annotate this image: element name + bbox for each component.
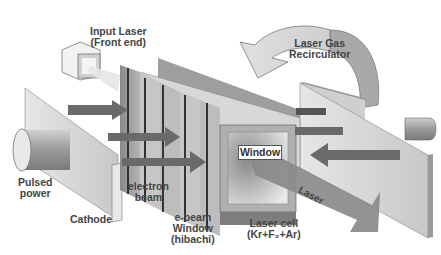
input-laser-label-line2: (Front end) — [90, 37, 147, 48]
ebeam-window-label: e-beam Window (hibachi) — [171, 212, 215, 245]
input-laser-front-end — [62, 42, 120, 92]
laser-system-diagram — [0, 0, 441, 255]
input-laser-label: Input Laser (Front end) — [90, 26, 147, 48]
gas-recirculator-label: Laser Gas Recirculator — [289, 38, 350, 60]
laser-cell-label-line2: (Kr+F₂+Ar) — [247, 229, 301, 240]
window-label-box: Window — [238, 145, 282, 160]
cathode-label-text: Cathode — [70, 214, 112, 225]
gas-recirculator-label-line2: Recirculator — [289, 49, 350, 60]
ebeam-window-label-line3: (hibachi) — [171, 234, 215, 245]
electron-beam-label-line2: beam — [128, 192, 169, 203]
electron-beam-label: electron beam — [128, 181, 169, 203]
pulsed-power-label-line2: power — [18, 188, 52, 199]
cathode-label: Cathode — [70, 214, 112, 225]
pulsed-power-label: Pulsed power — [18, 177, 52, 199]
laser-cell-label: Laser cell (Kr+F₂+Ar) — [247, 218, 301, 240]
